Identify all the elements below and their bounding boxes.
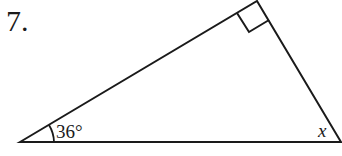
angle-arc [49, 125, 54, 142]
right-angle-marker [237, 13, 269, 32]
triangle-diagram: 36° x [0, 0, 342, 156]
angle-label: 36° [56, 121, 83, 142]
unknown-angle-label: x [317, 120, 327, 141]
